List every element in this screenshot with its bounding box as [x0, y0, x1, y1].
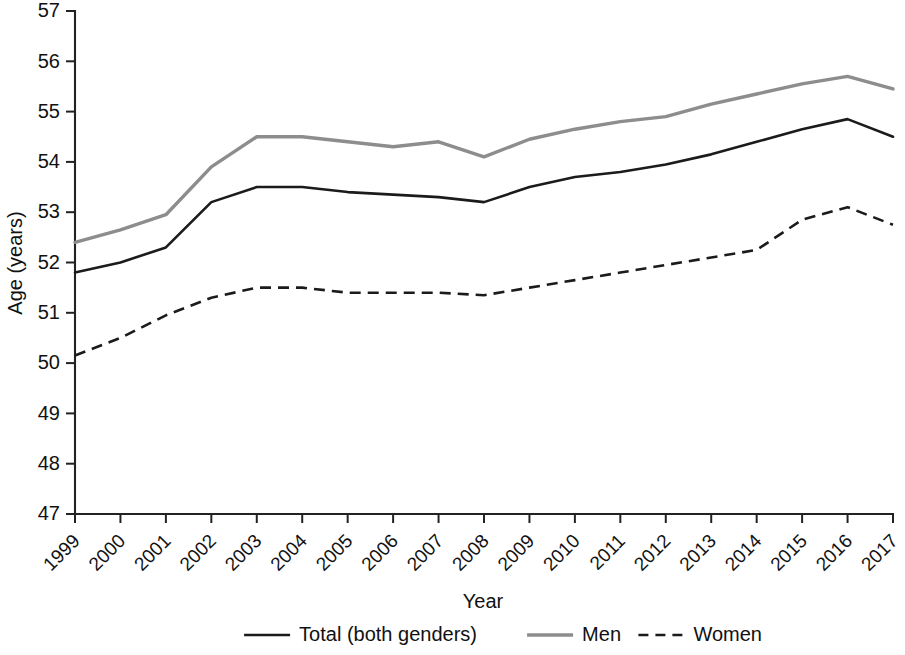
- x-tick-label: 2016: [812, 530, 857, 575]
- y-tick-label: 57: [38, 0, 60, 21]
- y-tick-label: 55: [38, 100, 60, 122]
- x-tick-label: 2000: [85, 530, 130, 575]
- y-axis-title: Age (years): [4, 211, 26, 314]
- x-tick-label: 2008: [448, 530, 493, 575]
- legend-label: Women: [693, 623, 762, 645]
- x-tick-label: 2017: [857, 530, 902, 575]
- y-tick-label: 49: [38, 402, 60, 424]
- x-tick-label: 2013: [675, 530, 720, 575]
- series-line-women: [75, 207, 893, 355]
- chart-legend: Total (both genders)MenWomen: [244, 623, 762, 645]
- x-tick-label: 2005: [312, 530, 357, 575]
- y-tick-label: 54: [38, 150, 60, 172]
- y-axis-ticks: 4748495051525354555657: [38, 0, 75, 524]
- x-tick-label: 2004: [266, 530, 311, 575]
- x-tick-label: 2007: [403, 530, 448, 575]
- y-tick-label: 50: [38, 351, 60, 373]
- line-chart-svg: 4748495051525354555657 19992000200120022…: [0, 0, 905, 655]
- y-tick-label: 52: [38, 251, 60, 273]
- y-tick-label: 56: [38, 50, 60, 72]
- y-tick-label: 53: [38, 200, 60, 222]
- x-tick-label: 2012: [630, 530, 675, 575]
- x-tick-label: 1999: [39, 530, 84, 575]
- x-tick-label: 2014: [721, 530, 766, 575]
- x-tick-label: 2011: [585, 530, 629, 574]
- x-axis-ticks: 1999200020012002200320042005200620072008…: [39, 514, 902, 575]
- data-series-group: [75, 76, 893, 355]
- series-line-total-both-genders: [75, 119, 893, 272]
- x-tick-label: 2001: [130, 530, 175, 575]
- x-axis-title: Year: [463, 590, 504, 612]
- x-tick-label: 2006: [357, 530, 402, 575]
- legend-label: Men: [582, 623, 621, 645]
- y-tick-label: 51: [38, 301, 60, 323]
- x-tick-label: 2009: [494, 530, 539, 575]
- chart-figure: 4748495051525354555657 19992000200120022…: [0, 0, 905, 655]
- x-tick-label: 2010: [539, 530, 584, 575]
- x-tick-label: 2015: [766, 530, 811, 575]
- y-tick-label: 47: [38, 502, 60, 524]
- x-tick-label: 2003: [221, 530, 266, 575]
- x-tick-label: 2002: [175, 530, 220, 575]
- y-tick-label: 48: [38, 452, 60, 474]
- legend-label: Total (both genders): [299, 623, 477, 645]
